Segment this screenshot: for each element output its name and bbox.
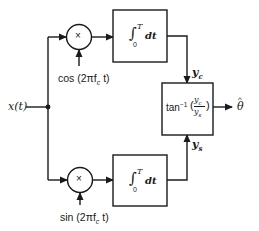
bottom-integrator-box — [113, 135, 187, 206]
bottom-integral-lower: 0 — [133, 186, 137, 193]
bottom-integral-sign: ∫ — [129, 171, 137, 186]
bottom-multiplier-symbol: × — [76, 174, 82, 184]
sin-reference-label: sin (2πfc t) — [60, 212, 109, 225]
ys-label: ys — [192, 139, 202, 152]
top-integral-sign: ∫ — [129, 26, 137, 41]
cos-tail: t) — [100, 72, 109, 84]
theta-hat-accent: ^ — [238, 96, 242, 104]
yc-label: yc — [192, 67, 203, 80]
input-label: x(t) — [8, 101, 27, 112]
arctan-paren-close: ) — [206, 100, 210, 111]
den-sub: s — [199, 112, 202, 118]
bottom-integral-upper: T — [137, 168, 142, 176]
top-multiplier-symbol: × — [75, 31, 81, 41]
ys-sub: s — [198, 144, 202, 153]
top-multiplier — [67, 25, 114, 67]
arctan-exp: −1 — [180, 101, 187, 108]
sin-tail: t) — [99, 211, 108, 223]
yc-sub: c — [198, 72, 202, 81]
arctan-numerator: yc — [194, 96, 202, 106]
num-sub: c — [199, 100, 202, 106]
cos-text: cos (2πf — [58, 72, 97, 84]
top-integrator-box — [113, 10, 187, 83]
cos-reference-label: cos (2πfc t) — [58, 73, 110, 86]
arctan-label: tan−1 — [166, 102, 187, 113]
bottom-integral-dt: dt — [145, 176, 157, 186]
top-integral-dt: dt — [145, 31, 157, 41]
top-integral-upper: T — [137, 23, 142, 31]
input-line — [26, 37, 67, 180]
arctan-denominator: ys — [194, 108, 201, 118]
bottom-multiplier — [68, 168, 114, 206]
arctan-func: tan — [166, 102, 180, 113]
top-integral-lower: 0 — [133, 41, 137, 48]
sin-text: sin (2πf — [60, 211, 96, 223]
